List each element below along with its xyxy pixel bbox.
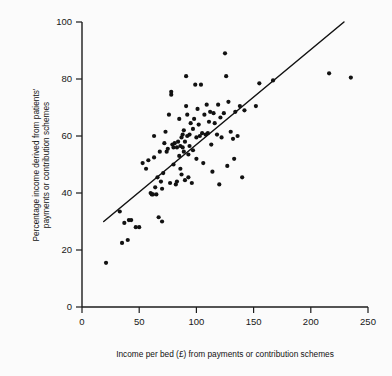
- data-point-marker: [169, 90, 173, 94]
- data-point-marker: [189, 121, 193, 125]
- data-point-marker: [120, 241, 124, 245]
- data-point-marker: [163, 130, 167, 134]
- data-point-marker: [161, 171, 165, 175]
- data-point-marker: [185, 113, 189, 117]
- data-point-marker: [137, 225, 141, 229]
- data-point-marker: [257, 81, 261, 85]
- data-point-marker: [232, 157, 236, 161]
- data-point-marker: [190, 181, 194, 185]
- y-axis-title-line-1: Percentage income derived from patients': [31, 88, 41, 241]
- data-point-marker: [184, 74, 188, 78]
- data-point-marker: [152, 134, 156, 138]
- data-point-marker: [141, 161, 145, 165]
- data-point-marker: [182, 128, 186, 132]
- data-point-marker: [171, 162, 175, 166]
- data-point-marker: [225, 164, 229, 168]
- data-point-marker: [271, 78, 275, 82]
- data-point-marker: [153, 185, 157, 189]
- y-tick-label: 80: [61, 73, 72, 84]
- data-point-marker: [181, 145, 185, 149]
- data-point-marker: [235, 134, 239, 138]
- data-point-marker: [157, 215, 161, 219]
- data-point-marker: [177, 154, 181, 158]
- data-point-marker: [205, 103, 209, 107]
- data-point-marker: [193, 83, 197, 87]
- data-point-marker: [202, 113, 206, 117]
- data-point-marker: [349, 75, 353, 79]
- data-point-marker: [223, 51, 227, 55]
- y-tick-label: 20: [61, 244, 72, 255]
- data-point-marker: [201, 161, 205, 165]
- data-point-marker: [155, 175, 159, 179]
- data-point-marker: [199, 83, 203, 87]
- data-point-marker: [177, 117, 181, 121]
- x-axis-title: Income per bed (£) from payments or cont…: [116, 349, 334, 359]
- data-point-marker: [160, 187, 164, 191]
- data-point-marker: [197, 123, 201, 127]
- data-point-marker: [254, 104, 258, 108]
- data-point-marker: [176, 140, 180, 144]
- data-point-marker: [215, 132, 219, 136]
- data-point-marker: [186, 152, 190, 156]
- x-tick-label: 200: [303, 316, 319, 327]
- data-point-marker: [238, 104, 242, 108]
- data-point-marker: [209, 142, 213, 146]
- data-point-marker: [122, 221, 126, 225]
- data-point-marker: [166, 147, 170, 151]
- data-point-marker: [167, 113, 171, 117]
- data-point-marker: [179, 172, 183, 176]
- data-point-marker: [186, 175, 190, 179]
- x-tick-label: 50: [134, 316, 145, 327]
- data-point-marker: [240, 175, 244, 179]
- data-point-marker: [231, 137, 235, 141]
- data-point-marker: [159, 180, 163, 184]
- data-point-marker: [327, 71, 331, 75]
- data-point-marker: [219, 135, 223, 139]
- data-point-marker: [162, 141, 166, 145]
- data-point-marker: [217, 182, 221, 186]
- data-point-marker: [126, 238, 130, 242]
- data-point-marker: [184, 104, 188, 108]
- data-point-marker: [194, 157, 198, 161]
- data-point-marker: [152, 155, 156, 159]
- data-point-marker: [213, 121, 217, 125]
- data-point-marker: [195, 107, 199, 111]
- y-tick-label: 40: [61, 187, 72, 198]
- data-point-marker: [226, 100, 230, 104]
- data-point-marker: [191, 127, 195, 131]
- y-tick-label: 60: [61, 130, 72, 141]
- data-point-marker: [222, 111, 226, 115]
- data-point-marker: [211, 111, 215, 115]
- data-point-marker: [210, 170, 214, 174]
- data-point-marker: [178, 167, 182, 171]
- data-point-marker: [175, 180, 179, 184]
- data-point-marker: [233, 110, 237, 114]
- scatter-plot-figure: 020406080100 050100150200250 Income per …: [0, 0, 392, 376]
- data-point-marker: [229, 130, 233, 134]
- y-axis-title-line-2: payments or contribution schemes: [41, 102, 51, 228]
- data-point-marker: [183, 178, 187, 182]
- data-point-marker: [160, 219, 164, 223]
- data-point-marker: [154, 192, 158, 196]
- data-point-marker: [224, 74, 228, 78]
- data-point-marker: [104, 261, 108, 265]
- data-point-marker: [216, 103, 220, 107]
- data-point-marker: [218, 115, 222, 119]
- data-point-marker: [183, 140, 187, 144]
- x-tick-label: 0: [79, 316, 84, 327]
- y-tick-label: 0: [67, 301, 72, 312]
- data-point-marker: [191, 148, 195, 152]
- data-point-marker: [192, 117, 196, 121]
- chart-canvas: 020406080100 050100150200250 Income per …: [0, 0, 392, 376]
- data-point-marker: [118, 209, 122, 213]
- data-point-marker: [182, 150, 186, 154]
- data-point-marker: [146, 158, 150, 162]
- data-point-marker: [181, 132, 185, 136]
- y-tick-label: 100: [56, 16, 72, 27]
- data-point-marker: [207, 120, 211, 124]
- data-point-marker: [187, 144, 191, 148]
- data-point-marker: [129, 218, 133, 222]
- data-point-marker: [242, 108, 246, 112]
- data-point-marker: [187, 132, 191, 136]
- x-tick-label: 150: [246, 316, 262, 327]
